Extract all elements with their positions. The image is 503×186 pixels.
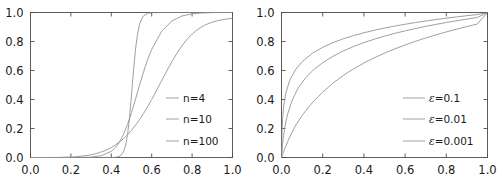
chart-panel-left: 0.00.20.40.60.81.00.00.20.40.60.81.0n=4n…: [0, 0, 252, 186]
right-chart-legend: ε=0.1ε=0.01ε=0.001: [403, 92, 474, 147]
right-chart-legend-label: ε=0.1: [429, 92, 460, 104]
left-chart-xticklabel: 0.0: [21, 163, 39, 177]
right-chart-xticklabel: 0.8: [437, 163, 455, 177]
right-chart-xticklabel: 1.0: [478, 163, 496, 177]
right-chart-yticklabel: 0.6: [256, 64, 274, 78]
right-chart-yticklabel: 0.0: [256, 151, 274, 165]
right-chart-xticklabel: 0.4: [355, 163, 373, 177]
right-chart-ticks: 0.00.20.40.60.81.00.00.20.40.60.81.0: [256, 6, 496, 177]
figure-container: 0.00.20.40.60.81.00.00.20.40.60.81.0n=4n…: [0, 0, 503, 186]
right-chart-yticklabel: 0.2: [256, 122, 274, 136]
right-chart-yticklabel: 1.0: [256, 6, 274, 20]
right-chart-legend-label: ε=0.01: [429, 113, 467, 125]
left-chart-xticklabel: 0.6: [143, 163, 161, 177]
chart-panel-right: 0.00.20.40.60.81.00.00.20.40.60.81.0ε=0.…: [251, 0, 503, 186]
right-chart-yticklabel: 0.8: [256, 35, 274, 49]
right-chart-xticklabel: 0.2: [314, 163, 332, 177]
left-chart-yticklabel: 0.0: [5, 151, 23, 165]
left-chart-yticklabel: 0.4: [5, 93, 23, 107]
left-chart-xticklabel: 0.8: [183, 163, 201, 177]
right-chart-legend-label: ε=0.001: [429, 135, 474, 147]
right-chart-xticklabel: 0.0: [272, 163, 290, 177]
left-chart-xticklabel: 0.4: [102, 163, 120, 177]
right-chart-svg: 0.00.20.40.60.81.00.00.20.40.60.81.0ε=0.…: [251, 0, 503, 186]
left-chart-legend-label: n=10: [183, 113, 212, 125]
left-chart-svg: 0.00.20.40.60.81.00.00.20.40.60.81.0n=4n…: [0, 0, 252, 186]
left-chart-legend: n=4n=10n=100: [166, 92, 219, 147]
left-chart-yticklabel: 0.6: [5, 64, 23, 78]
left-chart-xticklabel: 1.0: [223, 163, 241, 177]
right-chart-xticklabel: 0.6: [396, 163, 414, 177]
left-chart-xticklabel: 0.2: [62, 163, 80, 177]
left-chart-legend-label: n=4: [183, 92, 205, 104]
left-chart-legend-label: n=100: [183, 135, 219, 147]
left-chart-yticklabel: 1.0: [5, 6, 23, 20]
left-chart-yticklabel: 0.8: [5, 35, 23, 49]
right-chart-yticklabel: 0.4: [256, 93, 274, 107]
left-chart-yticklabel: 0.2: [5, 122, 23, 136]
